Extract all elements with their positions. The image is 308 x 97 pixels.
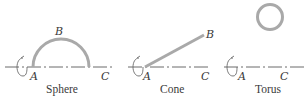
rotation-arrow-icon <box>133 56 143 76</box>
sphere-point-c-label: C <box>101 70 110 83</box>
sphere-caption: Sphere <box>46 83 78 96</box>
cone-point-a-label: A <box>142 70 151 83</box>
cone-generating-line <box>145 35 204 67</box>
torus-generating-circle <box>258 5 283 30</box>
rotation-arrow-icon <box>227 56 237 76</box>
surfaces-of-revolution-diagram: A B C Sphere A B C Cone A C Torus <box>0 0 308 97</box>
sphere-point-b-label: B <box>54 25 63 38</box>
cone-panel: A B C Cone <box>128 28 214 95</box>
sphere-point-a-label: A <box>29 70 38 83</box>
torus-point-c-label: C <box>280 70 289 83</box>
sphere-panel: A B C Sphere <box>5 25 115 96</box>
rotation-arrow-icon <box>17 56 27 76</box>
torus-caption: Torus <box>255 83 282 95</box>
torus-panel: A C Torus <box>224 5 306 96</box>
cone-point-b-label: B <box>205 28 214 41</box>
sphere-semicircle-curve <box>33 39 89 67</box>
cone-caption: Cone <box>160 83 184 95</box>
torus-point-a-label: A <box>237 70 246 83</box>
cone-point-c-label: C <box>201 70 210 83</box>
